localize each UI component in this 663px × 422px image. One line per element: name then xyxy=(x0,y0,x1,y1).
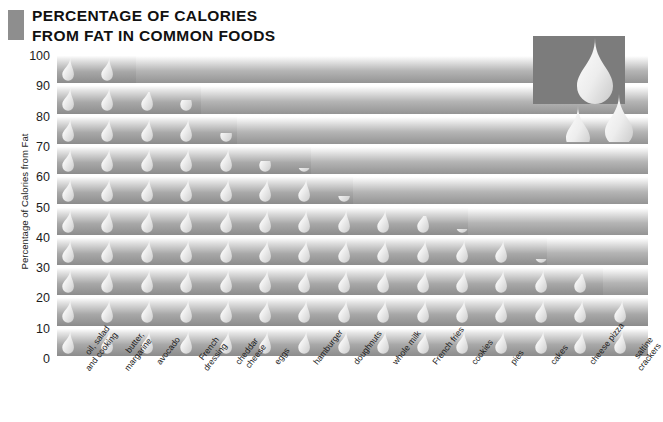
drop-marker xyxy=(295,178,313,203)
drop-marker xyxy=(453,239,471,264)
y-axis-tick-30: 30 xyxy=(36,261,50,275)
drop-marker xyxy=(59,57,77,82)
drop-marker xyxy=(138,209,156,234)
drop-marker xyxy=(98,178,116,203)
drop-marker xyxy=(374,209,392,234)
x-axis: oil, saladand cookingbutter,margarineavo… xyxy=(57,359,648,422)
drop-marker xyxy=(256,239,274,264)
drop-marker xyxy=(59,209,77,234)
logo-drop-icons xyxy=(521,2,661,142)
drop-marker xyxy=(138,178,156,203)
drop-marker xyxy=(295,299,313,324)
drop-marker xyxy=(295,269,313,294)
drop-marker xyxy=(335,196,353,204)
y-axis-tick-60: 60 xyxy=(36,170,50,184)
drop-marker xyxy=(374,239,392,264)
drop-marker xyxy=(138,148,156,173)
drop-marker xyxy=(295,168,313,173)
drop-marker xyxy=(492,269,510,294)
drop-marker xyxy=(374,299,392,324)
y-axis-tick-20: 20 xyxy=(36,291,50,305)
y-axis-tick-50: 50 xyxy=(36,201,50,215)
drop-marker xyxy=(295,330,313,355)
drop-marker xyxy=(98,239,116,264)
drop-marker xyxy=(335,299,353,324)
drop-marker xyxy=(59,118,77,143)
y-axis-tick-80: 80 xyxy=(36,110,50,124)
drop-marker xyxy=(177,299,195,324)
y-axis-tick-100: 100 xyxy=(29,49,50,63)
drop-marker xyxy=(414,269,432,294)
drop-marker xyxy=(256,269,274,294)
drop-marker xyxy=(414,216,432,234)
drop-marker xyxy=(138,118,156,143)
drop-marker xyxy=(59,299,77,324)
page-title: PERCENTAGE OF CALORIES FROM FAT IN COMMO… xyxy=(32,6,276,46)
drop-marker xyxy=(59,87,77,112)
drop-marker xyxy=(138,269,156,294)
drop-marker xyxy=(256,161,274,174)
drop-marker xyxy=(59,330,77,355)
y-axis-tick-70: 70 xyxy=(36,140,50,154)
drop-marker xyxy=(177,118,195,143)
drop-marker xyxy=(177,178,195,203)
drop-marker xyxy=(571,299,589,324)
drop-marker xyxy=(492,239,510,264)
drop-marker xyxy=(59,269,77,294)
y-axis-title: Percentage of Calories from Fat xyxy=(19,92,30,312)
drop-marker xyxy=(217,299,235,324)
drop-marker xyxy=(453,269,471,294)
drop-marker xyxy=(177,100,195,113)
drop-marker xyxy=(453,229,471,234)
drop-marker xyxy=(138,239,156,264)
drop-marker xyxy=(59,178,77,203)
drop-marker xyxy=(414,239,432,264)
value-band-30-40 xyxy=(57,238,648,265)
drop-marker xyxy=(571,274,589,294)
value-band-20-30 xyxy=(57,268,648,295)
drop-marker xyxy=(217,178,235,203)
drop-marker xyxy=(138,92,156,112)
drop-marker xyxy=(98,209,116,234)
drop-marker xyxy=(177,269,195,294)
drop-marker xyxy=(335,239,353,264)
drop-marker xyxy=(98,57,116,82)
drop-marker xyxy=(453,299,471,324)
drop-marker xyxy=(492,330,510,355)
drop-marker xyxy=(98,118,116,143)
y-axis: Percentage of Calories from Fat 01020304… xyxy=(0,0,57,422)
drop-marker xyxy=(256,299,274,324)
drop-marker xyxy=(217,133,235,143)
drop-marker xyxy=(492,299,510,324)
drop-marker xyxy=(335,269,353,294)
drop-marker xyxy=(217,209,235,234)
y-axis-tick-0: 0 xyxy=(43,352,50,366)
y-axis-tick-90: 90 xyxy=(36,79,50,93)
y-axis-tick-40: 40 xyxy=(36,231,50,245)
drop-marker xyxy=(98,299,116,324)
y-axis-tick-10: 10 xyxy=(36,322,50,336)
drop-marker xyxy=(532,259,550,264)
drop-marker xyxy=(532,299,550,324)
drop-marker xyxy=(571,330,589,355)
drop-marker xyxy=(98,148,116,173)
drop-marker xyxy=(177,148,195,173)
drop-marker xyxy=(611,299,629,324)
drop-marker xyxy=(295,239,313,264)
value-band-40-50 xyxy=(57,208,648,235)
drop-marker xyxy=(217,148,235,173)
value-band-50-60 xyxy=(57,177,648,204)
value-band-60-70 xyxy=(57,147,648,174)
drop-marker xyxy=(138,299,156,324)
drop-marker xyxy=(532,330,550,355)
value-band-10-20 xyxy=(57,298,648,325)
drop-marker xyxy=(177,209,195,234)
drop-marker xyxy=(256,209,274,234)
drop-marker xyxy=(414,299,432,324)
drop-marker xyxy=(59,148,77,173)
drop-marker xyxy=(532,269,550,294)
drop-marker xyxy=(217,269,235,294)
drop-marker xyxy=(217,239,235,264)
drop-marker xyxy=(295,209,313,234)
drop-marker xyxy=(98,269,116,294)
